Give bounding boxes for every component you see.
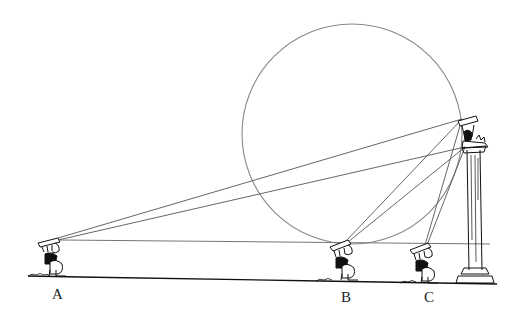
- column: [456, 146, 494, 283]
- observer-b: [316, 240, 358, 281]
- observer-a: [28, 238, 66, 276]
- sight-line-b-bottom: [348, 147, 465, 242]
- label-a: A: [52, 286, 63, 303]
- tangent-circle: [242, 24, 462, 244]
- illustration-canvas: [0, 0, 520, 321]
- label-b: B: [341, 289, 351, 306]
- observer-c: [400, 243, 438, 283]
- sight-line-c-bottom: [427, 147, 465, 245]
- label-c: C: [424, 289, 434, 306]
- sight-line-a-top: [58, 119, 462, 238]
- sight-line-a-bottom: [58, 147, 465, 240]
